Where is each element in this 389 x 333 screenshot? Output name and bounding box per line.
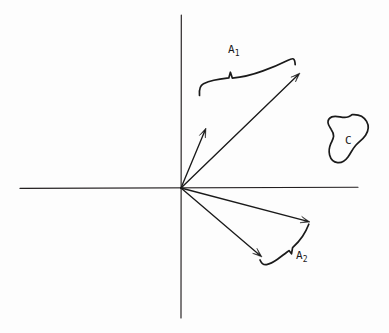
upper-steep-vector: [181, 131, 205, 188]
vector-diagram-figure: A1 A2 C: [0, 0, 389, 333]
label-a1-base: A: [228, 43, 235, 56]
label-a2-base: A: [296, 249, 303, 262]
brace-a1-curve: [199, 59, 295, 96]
label-a1-subscript: 1: [235, 49, 240, 58]
horizontal-axis: [20, 187, 358, 188]
label-a1: A1: [228, 44, 239, 58]
brace-a1-group: [199, 59, 295, 96]
label-a2: A2: [296, 250, 307, 264]
upper-long-vector: [181, 75, 298, 188]
axes-group: [20, 15, 358, 318]
label-c: C: [345, 135, 352, 146]
label-c-base: C: [345, 134, 352, 147]
label-a2-subscript: 2: [303, 255, 308, 264]
vectors-group: [181, 73, 310, 257]
diagram-canvas: [0, 0, 389, 333]
